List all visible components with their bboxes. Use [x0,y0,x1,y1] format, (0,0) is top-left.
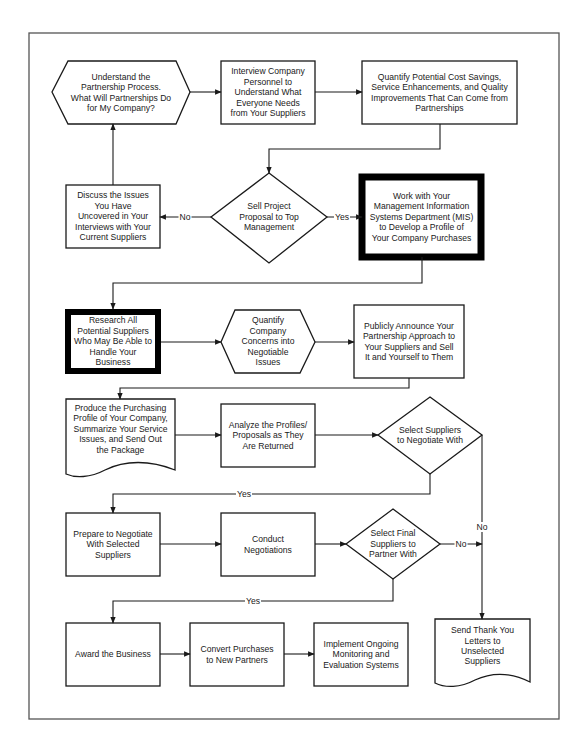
node-conduct: Conduct Negotiations [221,513,315,576]
node-select-negotiate-decision: Select Suppliers to Negotiate With [385,420,475,450]
edge-label-select-negotiate-yes: Yes [236,489,252,499]
node-produce-document: Produce the Purchasing Profile of Your C… [66,402,175,456]
node-understand: Understand the Partnership Process. What… [60,61,182,124]
node-implement: Implement Ongoing Monitoring and Evaluat… [314,623,408,686]
node-convert: Convert Purchases to New Partners [190,623,284,686]
node-sell-decision: Sell Project Proposal to Top Management [221,190,317,244]
edge-label-select-negotiate-no: No [476,522,489,532]
node-announce: Publicly Announce Your Partnership Appro… [354,305,464,378]
edge-label-select-final-no: No [455,539,468,549]
edge-select-yes-prepare [113,474,430,513]
node-prepare: Prepare to Negotiate With Selected Suppl… [66,513,160,576]
edge-label-sell-yes: Yes [334,212,350,222]
node-thankyou-document: Send Thank You Letters to Unselected Sup… [435,622,530,670]
edge-announce-produce [120,378,409,399]
node-select-final-decision: Select Final Suppliers to Partner With [353,524,433,564]
flowchart-canvas: Understand the Partnership Process. What… [0,0,580,749]
node-mis: Work with Your Management Information Sy… [365,180,478,254]
node-quantify-savings: Quantify Potential Cost Savings, Service… [362,61,517,124]
edge-label-select-final-yes: Yes [245,596,261,606]
page-frame [29,33,559,719]
edge-label-sell-no: No [179,212,192,222]
node-award: Award the Business [66,623,160,686]
node-analyze: Analyze the Profiles/ Proposals as They … [221,404,315,467]
edge-quantify-sell [269,124,440,173]
node-quantify-concerns: Quantify Company Concerns into Negotiabl… [232,310,304,373]
node-discuss: Discuss the Issues You Have Uncovered in… [66,185,160,248]
edge-mis-research [113,257,422,309]
node-research: Research All Potential Suppliers Who May… [70,313,156,370]
node-interview: Interview Company Personnel to Understan… [221,61,315,124]
